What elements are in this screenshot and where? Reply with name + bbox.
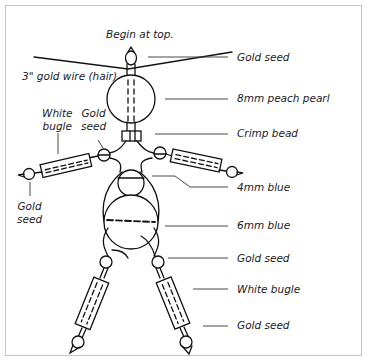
chest-4mm-blue [118,170,144,196]
leader-arm-seed [98,140,103,148]
hair-label: 3" gold wire (hair) [22,70,117,83]
top-gold-seed [126,51,137,65]
arm-seed-label-line2: seed [81,120,106,133]
crimp-bead [122,131,141,141]
label-peach-pearl: 8mm peach pearl [237,92,330,105]
label-white-bugle-leg: White bugle [237,283,300,296]
label-gold-seed-foot: Gold seed [237,319,290,332]
left-hand-seed [24,169,35,180]
hand-seed-label: Gold seed [17,200,42,226]
hand-seed-label-line2: seed [17,213,42,226]
right-hip-seed [152,256,164,268]
left-foot-seed [72,336,84,348]
right-shoulder-seed [154,147,166,159]
label-crimp-bead: Crimp bead [237,127,298,140]
label-6mm-blue: 6mm blue [237,219,290,232]
right-arm-bugle [170,149,222,172]
begin-note: Begin at top. [106,28,174,41]
arm-bugle-label: White bugle [42,107,73,133]
label-gold-seed-hip: Gold seed [237,252,290,265]
arm-seed-label-line1: Gold [81,107,106,120]
bead-figure-diagram [0,0,370,363]
hand-seed-label-line1: Gold [17,200,42,213]
arm-bugle-label-line1: White [42,107,73,120]
label-gold-seed-top: Gold seed [237,51,290,64]
left-hip-seed [100,256,112,268]
left-leg-bugle [75,277,109,329]
arm-bugle-label-line2: bugle [42,120,73,133]
label-4mm-blue: 4mm blue [237,181,290,194]
right-leg-bugle [156,277,190,329]
leader-4mm-blue [152,176,228,187]
belly-6mm-blue [104,195,158,249]
arm-seed-label: Gold seed [81,107,106,133]
right-hand-seed [227,167,238,178]
